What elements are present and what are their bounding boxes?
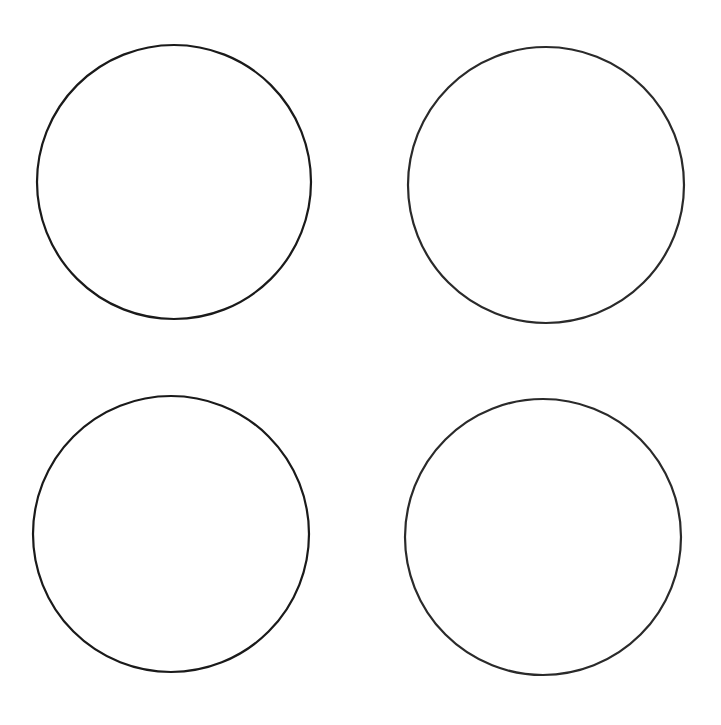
- diagram-canvas: [0, 0, 721, 725]
- background: [0, 0, 721, 725]
